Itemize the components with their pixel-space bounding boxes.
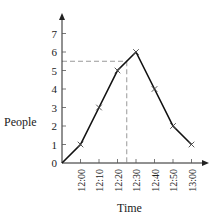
- x-axis-label: Time: [117, 201, 142, 215]
- x-tick-label: 12:40: [150, 169, 161, 192]
- y-tick-label: 1: [52, 139, 58, 151]
- x-tick-label: 12:10: [94, 169, 105, 192]
- axis-ticks: 0123456712:0012:1012:2012:3012:4012:5013…: [52, 28, 198, 192]
- x-tick-label: 12:50: [168, 169, 179, 192]
- y-tick-label: 3: [52, 102, 58, 114]
- y-axis-label: People: [4, 115, 37, 129]
- x-tick-label: 12:30: [131, 169, 142, 192]
- y-tick-label: 7: [52, 28, 58, 40]
- data-point-x-marker-icon: [115, 68, 121, 74]
- y-axis-arrow-icon: [59, 13, 65, 20]
- y-tick-label: 4: [52, 83, 58, 95]
- y-tick-label: 2: [52, 120, 58, 132]
- x-tick-label: 12:20: [113, 169, 124, 192]
- data-point-x-marker-icon: [133, 49, 139, 55]
- y-tick-label: 0: [52, 157, 58, 169]
- x-axis-arrow-icon: [202, 160, 209, 166]
- data-point-x-marker-icon: [170, 123, 176, 129]
- series-line: [62, 52, 192, 163]
- data-point-x-marker-icon: [96, 105, 102, 111]
- x-tick-label: 13:00: [187, 169, 198, 192]
- data-point-x-marker-icon: [152, 86, 158, 92]
- data-series: [62, 49, 194, 163]
- y-tick-label: 6: [52, 46, 58, 58]
- data-point-x-marker-icon: [78, 142, 84, 148]
- y-tick-label: 5: [52, 65, 58, 77]
- x-tick-label: 12:00: [76, 169, 87, 192]
- line-chart: 0123456712:0012:1012:2012:3012:4012:5013…: [0, 0, 220, 219]
- reference-lines: [62, 61, 127, 163]
- data-point-x-marker-icon: [189, 142, 195, 148]
